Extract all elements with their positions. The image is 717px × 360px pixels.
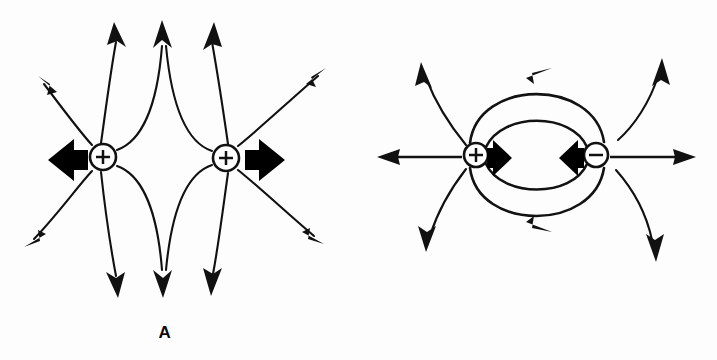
field-line-lower-right-steep: [203, 173, 228, 296]
field-line-center-right-up: [166, 46, 212, 151]
field-line-upper-right-diagonal: [618, 58, 670, 140]
charge-positive-left[interactable]: [90, 144, 116, 170]
field-arc-outer-bottom: [470, 168, 604, 232]
field-line-lower-left-outer: [24, 171, 92, 247]
field-line-lower-right-outer: [238, 170, 324, 244]
panel-b-opposite-charges: B: [359, 0, 717, 360]
charge-positive[interactable]: [464, 143, 488, 167]
charge-negative[interactable]: [584, 143, 608, 167]
field-line-upper-left-outer: [38, 76, 92, 145]
force-arrow-right: [245, 139, 285, 181]
panel-a-like-charges: A: [0, 0, 358, 360]
figure-root: A: [0, 0, 717, 360]
field-line-upper-left-steep: [101, 22, 126, 143]
field-line-upper-right-outer: [238, 68, 326, 146]
field-line-lower-left-diagonal: [418, 169, 466, 252]
field-line-lower-left-steep: [101, 172, 125, 298]
panel-a-label: A: [145, 324, 185, 341]
field-line-upper-right-steep: [203, 22, 228, 144]
field-arc-inner-top: [486, 121, 587, 147]
field-line-upper-left-diagonal: [415, 62, 466, 145]
field-line-right-horizontal: [610, 149, 696, 165]
field-line-lower-right-diagonal: [616, 170, 664, 262]
field-line-center-left-down: [117, 166, 172, 298]
field-line-center-right-down: [166, 165, 212, 270]
charge-positive-right[interactable]: [213, 145, 239, 171]
force-arrow-left: [48, 139, 88, 181]
field-line-left-horizontal: [377, 149, 462, 165]
panel-a-canvas: [0, 0, 358, 360]
field-arc-outer-top: [470, 68, 604, 143]
panel-b-canvas: [359, 0, 717, 360]
field-line-center-left-up: [117, 20, 172, 150]
force-arrow-left-inward: [559, 140, 584, 176]
